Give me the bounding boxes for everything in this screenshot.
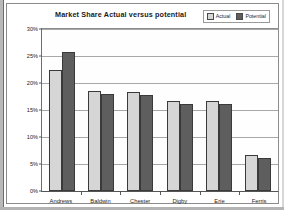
bar-potential-digby[interactable] [180,104,193,191]
chart-legend: ActualPotential [203,10,270,23]
x-axis: AndrewsBaldwinChesterDigbyErieFerris [41,194,279,210]
y-axis-tick-label: 5% [30,161,38,167]
bar-group [245,29,271,191]
bar-group [88,29,114,191]
bar-potential-ferris[interactable] [258,158,271,191]
bar-potential-erie[interactable] [219,104,232,191]
legend-swatch-icon [236,13,243,20]
y-axis-tick-label: 30% [27,26,38,32]
y-axis-tick-label: 20% [27,80,38,86]
bar-actual-digby[interactable] [167,101,180,191]
x-axis-tick-label: Digby [172,198,187,204]
x-axis-tick-label: Baldwin [90,198,110,204]
bar-actual-ferris[interactable] [245,155,258,191]
bar-group [206,29,232,191]
page-edge-left-line [3,0,4,210]
legend-label: Actual [216,14,231,19]
bar-actual-baldwin[interactable] [88,91,101,191]
bar-group [49,29,75,191]
bar-actual-andrews[interactable] [49,70,62,192]
bar-actual-erie[interactable] [206,101,219,191]
legend-item[interactable]: Potential [236,13,266,20]
page-edge-right [282,0,284,210]
bars-layer [42,29,278,191]
bar-potential-andrews[interactable] [62,52,75,191]
x-axis-tick-label: Andrews [50,198,73,204]
bar-group [127,29,153,191]
y-axis-tick-label: 10% [27,134,38,140]
chart-title: Market Share Actual versus potential [55,10,186,19]
y-axis-tick-label: 15% [27,107,38,113]
bar-potential-baldwin[interactable] [101,94,114,191]
bar-group [167,29,193,191]
plot-area-wrapper: 30%25%20%15%10%5%0% [41,28,279,192]
x-axis-tick-label: Chester [130,198,150,204]
bar-actual-chester[interactable] [127,92,140,191]
legend-label: Potential [245,14,266,19]
x-axis-tick-label: Erie [214,198,224,204]
bar-potential-chester[interactable] [140,95,153,191]
x-axis-tick-label: Ferris [252,198,267,204]
y-axis-tick-label: 25% [27,53,38,59]
chart-container: Market Share Actual versus potential Act… [6,3,279,204]
legend-swatch-icon [207,13,214,20]
y-axis-tick-label: 0% [30,188,38,194]
legend-item[interactable]: Actual [207,13,231,20]
chart-frame: Market Share Actual versus potential Act… [0,0,284,210]
